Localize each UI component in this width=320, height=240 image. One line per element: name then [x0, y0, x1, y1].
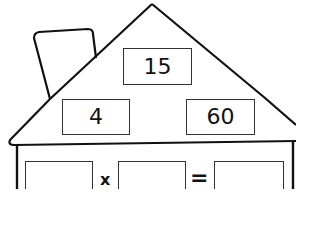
- roof-left-value: 4: [89, 106, 103, 128]
- roof-top-value-box: 15: [123, 48, 192, 85]
- roof-left-value-box: 4: [62, 99, 130, 135]
- operand-2-box[interactable]: [118, 161, 186, 189]
- roof-right-value: 60: [207, 106, 235, 128]
- result-box[interactable]: [214, 161, 284, 189]
- roof-top-value: 15: [144, 56, 172, 78]
- multiply-sign: x: [100, 170, 110, 189]
- operand-1-box[interactable]: [25, 161, 93, 189]
- roof-right-value-box: 60: [186, 99, 255, 135]
- equals-sign: =: [190, 165, 208, 189]
